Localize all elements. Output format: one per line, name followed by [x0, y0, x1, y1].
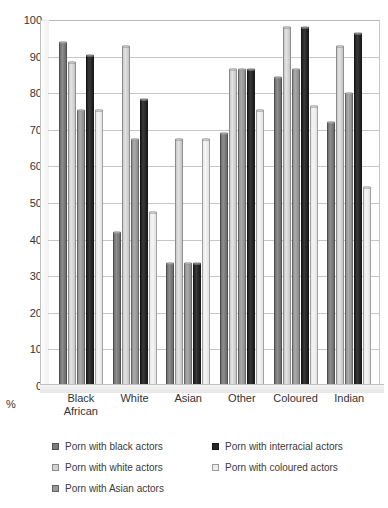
legend-label: Porn with coloured actors	[225, 462, 338, 473]
bar[interactable]	[131, 139, 139, 386]
legend-label: Porn with black actors	[65, 441, 163, 452]
bar-group	[54, 20, 108, 386]
bar[interactable]	[310, 106, 318, 386]
bar[interactable]	[247, 69, 255, 386]
bar[interactable]	[77, 110, 85, 386]
bar[interactable]	[175, 139, 183, 386]
legend-swatch-icon	[52, 464, 59, 471]
bar-groups	[48, 20, 380, 386]
bar-group	[108, 20, 162, 386]
bar[interactable]	[283, 27, 291, 386]
bar[interactable]	[238, 69, 246, 386]
bar[interactable]	[354, 33, 362, 386]
legend-item[interactable]: Porn with coloured actors	[212, 462, 372, 473]
legend-label: Porn with interracial actors	[225, 441, 343, 452]
x-axis-label: Indian	[322, 392, 376, 418]
bar-group	[215, 20, 269, 386]
bar-group	[161, 20, 215, 386]
legend-item[interactable]: Porn with black actors	[52, 441, 212, 452]
bar[interactable]	[193, 263, 201, 386]
chart-legend: Porn with black actorsPorn with interrac…	[52, 441, 372, 504]
legend-swatch-icon	[212, 464, 219, 471]
bar[interactable]	[68, 62, 76, 386]
legend-item[interactable]: Porn with Asian actors	[52, 483, 212, 494]
bar[interactable]	[59, 42, 67, 386]
bar[interactable]	[256, 110, 264, 386]
y-axis-unit-label: %	[6, 398, 16, 410]
bar[interactable]	[336, 46, 344, 386]
plot-area	[48, 20, 380, 386]
bar-group	[322, 20, 376, 386]
x-axis-label: Coloured	[269, 392, 323, 418]
legend-swatch-icon	[52, 485, 59, 492]
x-axis-label: BlackAfrican	[54, 392, 108, 418]
legend-label: Porn with Asian actors	[65, 483, 164, 494]
legend-swatch-icon	[212, 443, 219, 450]
bar[interactable]	[220, 133, 228, 386]
bar[interactable]	[292, 69, 300, 386]
bar[interactable]	[184, 263, 192, 386]
bar[interactable]	[95, 110, 103, 386]
bar[interactable]	[363, 187, 371, 386]
bar[interactable]	[86, 55, 94, 386]
bar[interactable]	[345, 93, 353, 386]
x-axis-label: Other	[215, 392, 269, 418]
legend-label: Porn with white actors	[65, 462, 163, 473]
legend-swatch-icon	[52, 443, 59, 450]
bar[interactable]	[166, 263, 174, 386]
bar[interactable]	[229, 69, 237, 386]
x-axis-label: Asian	[161, 392, 215, 418]
bar[interactable]	[149, 212, 157, 386]
bar[interactable]	[327, 122, 335, 386]
legend-item[interactable]: Porn with interracial actors	[212, 441, 372, 452]
bar[interactable]	[113, 232, 121, 386]
x-axis-labels: BlackAfricanWhiteAsianOtherColouredIndia…	[48, 392, 380, 418]
bar[interactable]	[140, 99, 148, 386]
legend-item[interactable]: Porn with white actors	[52, 462, 212, 473]
x-axis-label: White	[108, 392, 162, 418]
bar[interactable]	[301, 27, 309, 386]
bar-group	[269, 20, 323, 386]
bar[interactable]	[122, 46, 130, 386]
bar[interactable]	[274, 77, 282, 386]
bar[interactable]	[202, 139, 210, 386]
bar-chart: 1009080706050403020100 % BlackAfricanWhi…	[0, 0, 388, 508]
